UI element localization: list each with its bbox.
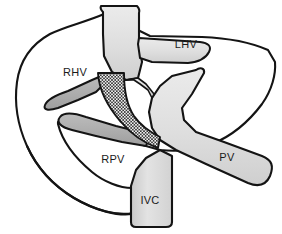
- anatomy-canvas: LHV RHV RPV PV IVC: [0, 0, 282, 234]
- label-inferior-vena-cava: IVC: [140, 194, 159, 206]
- label-right-portal-vein: RPV: [101, 153, 125, 165]
- infrahepatic-ivc-group: [131, 150, 172, 227]
- infrahepatic-ivc-trunk: [131, 150, 172, 227]
- label-left-hepatic-vein: LHV: [175, 38, 198, 50]
- liver-anatomy-figure: LHV RHV RPV PV IVC: [0, 0, 282, 234]
- label-portal-vein: PV: [219, 151, 235, 163]
- label-right-hepatic-vein: RHV: [63, 66, 87, 78]
